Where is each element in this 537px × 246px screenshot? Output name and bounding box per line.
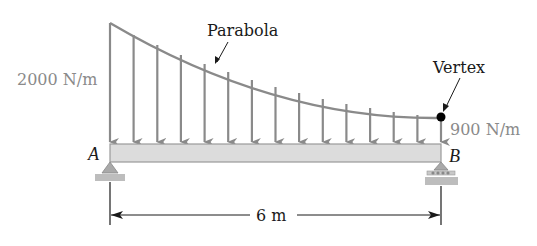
beam [110,144,441,162]
beam-diagram: Parabola Vertex 2000 N/m 900 N/m A B 6 m [0,0,537,246]
support-a-label: A [87,144,100,164]
vertex-label: Vertex [432,58,485,77]
span-label: 6 m [256,206,286,225]
vertex-pointer [445,78,460,109]
vertex-dot [437,113,446,122]
distributed-load-arrows [110,23,441,142]
parabola-label: Parabola [207,21,279,40]
support-b-label: B [449,146,460,166]
left-load-label: 2000 N/m [17,70,97,89]
pin-support-a [95,162,125,181]
right-load-label: 900 N/m [450,120,520,139]
